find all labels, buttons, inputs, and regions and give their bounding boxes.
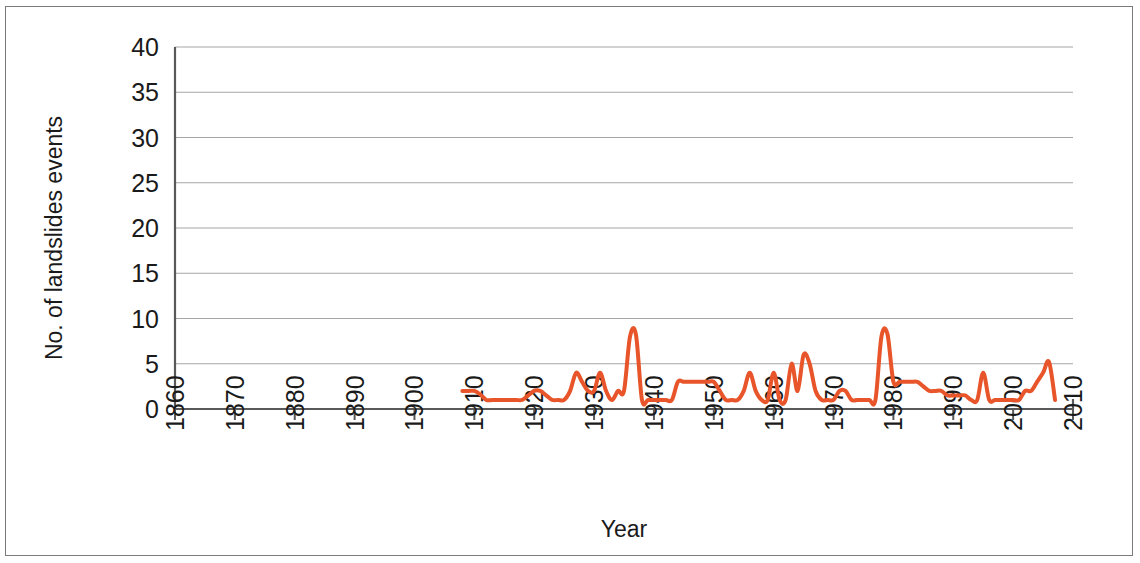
x-tick-label: 1970 (820, 375, 848, 431)
x-tick-label: 1920 (520, 375, 548, 431)
x-tick-label: 1910 (460, 375, 488, 431)
x-tick-label: 1860 (161, 375, 189, 431)
x-tick-label: 1900 (400, 375, 428, 431)
x-tick-label: 2010 (1059, 375, 1087, 431)
y-tick-label: 20 (131, 214, 159, 242)
y-tick-label: 25 (131, 169, 159, 197)
x-tick-label: 1890 (341, 375, 369, 431)
x-tick-label: 1880 (281, 375, 309, 431)
x-tick-label: 2000 (999, 375, 1027, 431)
y-tick-label: 35 (131, 78, 159, 106)
x-tick-label: 1990 (939, 375, 967, 431)
y-tick-label: 0 (145, 395, 159, 423)
y-tick-label: 40 (131, 33, 159, 61)
y-tick-label: 10 (131, 305, 159, 333)
y-axis-title: No. of landslides events (41, 116, 67, 360)
landslides-events-figure: 1860187018801890190019101920193019401950… (0, 0, 1140, 563)
y-tick-label: 5 (145, 350, 159, 378)
x-axis-title: Year (601, 516, 648, 542)
y-tick-label: 30 (131, 124, 159, 152)
x-tick-label: 1870 (221, 375, 249, 431)
y-tick-label: 15 (131, 259, 159, 287)
chart-canvas: 1860187018801890190019101920193019401950… (0, 0, 1140, 563)
